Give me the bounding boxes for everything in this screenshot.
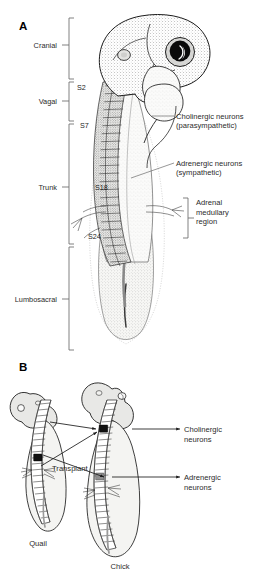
axial-level-brackets: Cranial Vagal Trunk Lumbosacral (15, 18, 74, 350)
adrenal-region-label-line1: Adrenal (196, 198, 222, 207)
callout-cholinergic-line2: (parasympathetic) (176, 121, 237, 130)
callout-cholinergic-b: Cholinergic neurons (132, 425, 222, 444)
callout-b-adrenergic-line1: Adrenergic (184, 473, 221, 482)
quail-label: Quail (29, 539, 47, 548)
somite-label-s7: S7 (80, 121, 89, 130)
panel-a: A Cranial Vagal Trunk (15, 14, 244, 350)
somite-label-s2: S2 (77, 83, 86, 92)
bracket-trunk: Trunk (38, 124, 74, 244)
chick-label: Chick (111, 562, 130, 571)
bracket-label-trunk: Trunk (38, 183, 57, 192)
callout-b-adrenergic-line2: neurons (184, 483, 212, 492)
chick-otic-vesicle (96, 391, 102, 396)
adrenal-region-label-line3: region (196, 217, 217, 226)
bracket-lumbosacral: Lumbosacral (15, 247, 74, 350)
bracket-cranial: Cranial (34, 18, 74, 79)
callout-b-cholinergic-line1: Cholinergic (184, 425, 222, 434)
chick-transplant-block-vagal (99, 425, 108, 432)
otic-vesicle-inner (121, 53, 127, 58)
panel-b: B (10, 361, 222, 571)
bracket-label-lumbosacral: Lumbosacral (15, 295, 58, 304)
quail-transplant-block (34, 454, 42, 461)
callout-adrenergic-line1: Adrenergic neurons (176, 159, 242, 168)
figure-root: A Cranial Vagal Trunk (0, 0, 265, 574)
scientific-figure: A Cranial Vagal Trunk (0, 0, 265, 574)
adrenal-region-label-line2: medullary (196, 208, 229, 217)
bracket-label-cranial: Cranial (34, 41, 58, 50)
chick-embryo-drawing (71, 14, 210, 344)
callout-adrenergic-line2: (sympathetic) (176, 168, 222, 177)
panel-b-letter: B (19, 361, 27, 373)
somite-label-s18: S18 (95, 183, 108, 192)
chick-eye (118, 393, 126, 400)
bracket-vagal: Vagal (39, 82, 74, 121)
transplant-label: Transplant (52, 464, 88, 473)
panel-a-letter: A (19, 20, 27, 32)
callout-cholinergic-line1: Cholinergic neurons (176, 112, 244, 121)
callout-b-cholinergic-line2: neurons (184, 435, 212, 444)
bracket-label-vagal: Vagal (39, 97, 58, 106)
quail-eye (18, 405, 25, 412)
transplant-arrow-vagal-to-vagal (50, 422, 96, 429)
adrenal-medullary-bracket: Adrenal medullary region (183, 198, 229, 238)
somite-label-s24: S24 (88, 232, 101, 241)
